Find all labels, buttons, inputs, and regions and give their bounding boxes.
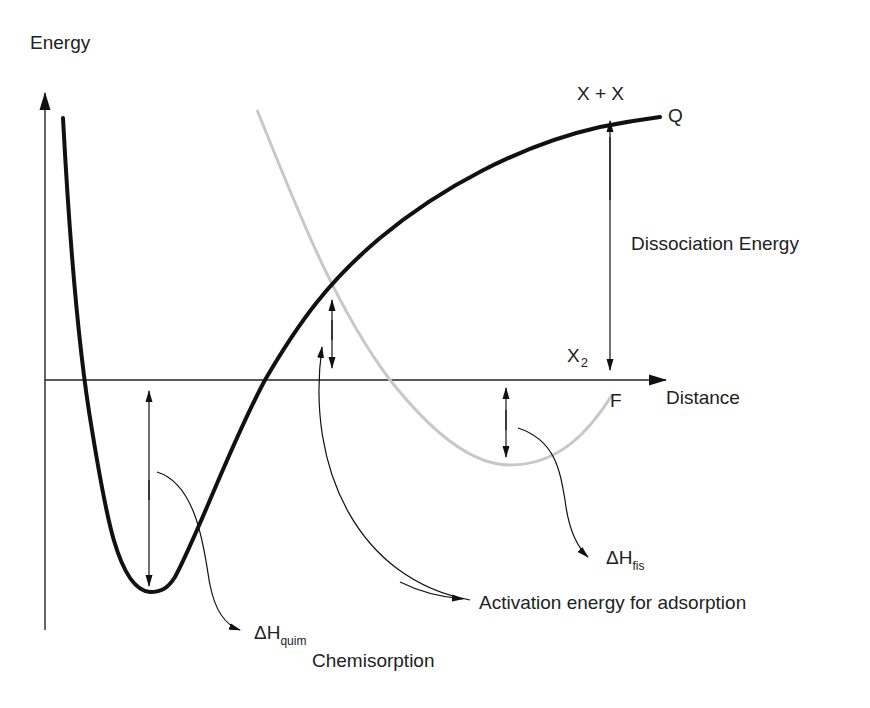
curve-q-label: Q [668, 106, 683, 125]
chemisorption-label: Chemisorption [312, 651, 435, 670]
molecule-state-sub: 2 [581, 355, 588, 370]
physisorption-curve-f [257, 110, 612, 465]
activation-energy-label: Activation energy for adsorption [479, 593, 746, 612]
dh-fis-sub: fis [632, 559, 644, 573]
dh-quim-sub: quim [280, 634, 306, 648]
curve-f-label: F [610, 391, 622, 410]
x-axis-label: Distance [666, 388, 740, 407]
dh-quim-main: ΔH [254, 622, 280, 643]
dissociation-energy-label: Dissociation Energy [631, 234, 799, 253]
dissociated-state-label: X + X [577, 84, 624, 103]
y-axis-label: Energy [30, 33, 90, 52]
dh-quim-label: ΔHquim [254, 623, 306, 642]
molecule-state-main: X [567, 345, 580, 366]
dh-fis-leader [518, 428, 588, 557]
dh-quim-leader [157, 472, 240, 630]
molecule-state-label: X2 [567, 346, 588, 365]
dh-fis-main: ΔH [606, 547, 632, 568]
dh-fis-label: ΔHfis [606, 548, 644, 567]
